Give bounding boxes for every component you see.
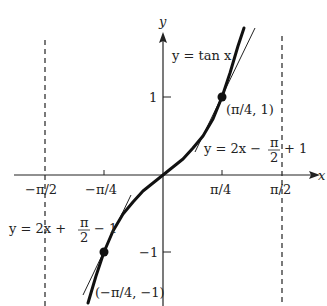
point-pi-4 xyxy=(218,93,227,102)
x-axis-label: x xyxy=(318,168,326,183)
point-label-neg-pi-4: (−π/4, −1) xyxy=(95,285,165,300)
tangent-upper-suffix: + 1 xyxy=(284,141,307,156)
tan-diagram: y x −π/2 −π/4 π/4 π/2 1 −1 y = tan x (π/… xyxy=(0,0,327,306)
tick-label-neg-pi-4: −π/4 xyxy=(85,182,117,197)
tangent-upper-frac-num: π xyxy=(270,135,279,150)
point-label-pi-4: (π/4, 1) xyxy=(226,102,274,117)
tick-label-pi-2: π/2 xyxy=(270,182,291,197)
tangent-lower-frac-num: π xyxy=(80,215,89,230)
tangent-lower-frac-den: 2 xyxy=(80,230,88,245)
tangent-upper-prefix: y = 2x − xyxy=(203,141,261,156)
tangent-upper-frac-den: 2 xyxy=(270,150,278,165)
tangent-lower-prefix: y = 2x + xyxy=(8,221,66,236)
tick-label-y-1: 1 xyxy=(149,90,157,105)
tick-label-y-neg-1: −1 xyxy=(139,245,158,260)
tangent-lower-suffix: − 1 xyxy=(94,221,117,236)
curve-label: y = tan x xyxy=(171,48,232,63)
tick-label-neg-pi-2: −π/2 xyxy=(25,182,57,197)
y-axis-label: y xyxy=(158,14,167,29)
point-neg-pi-4 xyxy=(100,248,109,257)
tick-label-pi-4: π/4 xyxy=(210,182,231,197)
tan-curve xyxy=(88,28,244,303)
